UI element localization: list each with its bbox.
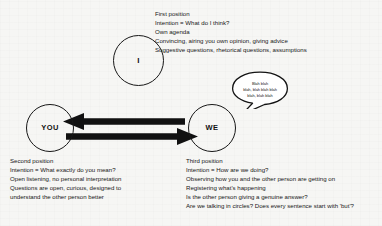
third-position-line: Third position <box>186 157 354 166</box>
second-position-line: Second position <box>10 157 121 166</box>
third-position-line: Intention = How are we doing? <box>186 166 354 175</box>
speech-bubble: Blah blah blah, blah blah blah blah, bla… <box>231 71 289 109</box>
second-position-line: Questions are open, curious, designed to <box>10 184 121 193</box>
node-you[interactable]: YOU <box>26 104 74 152</box>
second-position-line: Intention = What exactly do you mean? <box>10 166 121 175</box>
node-i-label: I <box>137 57 140 65</box>
first-position-line: Convincing, airing you own opinion, givi… <box>155 37 307 46</box>
second-position-text-block: Second position Intention = What exactly… <box>10 157 121 202</box>
first-position-line: Suggestive questions, rhetorical questio… <box>155 46 307 55</box>
node-you-label: YOU <box>41 124 58 132</box>
arrow-we-to-you <box>63 113 185 130</box>
second-position-line: understand the other person better <box>10 193 121 202</box>
first-position-line: Own agenda <box>155 28 307 37</box>
speech-bubble-line: blah, blah blah <box>247 93 272 99</box>
first-position-line: First position <box>155 10 307 19</box>
first-position-text-block: First position Intention = What do I thi… <box>155 10 307 55</box>
arrow-you-to-we <box>66 128 198 145</box>
third-position-line: Is the other person giving a genuine ans… <box>186 193 354 202</box>
node-we-label: WE <box>206 124 219 132</box>
diagram-canvas: I YOU WE Blah blah blah, blah blah blah … <box>0 0 382 226</box>
node-we[interactable]: WE <box>188 104 236 152</box>
speech-bubble-text: Blah blah blah, blah blah blah blah, bla… <box>231 71 289 109</box>
third-position-line: Observing how you and the other person a… <box>186 175 354 184</box>
third-position-text-block: Third position Intention = How are we do… <box>186 157 354 211</box>
first-position-line: Intention = What do I think? <box>155 19 307 28</box>
third-position-line: Registering what's happening <box>186 184 354 193</box>
third-position-line: Are we talking in circles? Does every se… <box>186 202 354 211</box>
second-position-line: Open listening, no personal interpretati… <box>10 175 121 184</box>
